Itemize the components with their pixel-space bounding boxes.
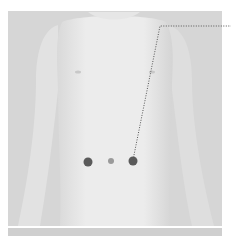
torso [57,16,173,226]
right-arm [168,25,214,226]
navel [108,158,114,164]
right-marker-dot [129,157,138,166]
torso-illustration [0,0,231,236]
left-arm [18,25,58,226]
left-marker-dot [84,158,93,167]
